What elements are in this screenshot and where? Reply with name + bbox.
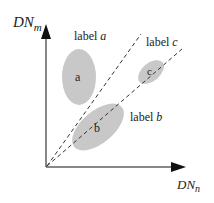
cluster-c-inner-label: c (147, 65, 152, 77)
cluster-a-inner-label: a (75, 70, 81, 84)
y-axis-arrowhead-icon (41, 24, 51, 39)
label-b: label b (130, 110, 162, 124)
y-axis-label: DNm (12, 14, 42, 33)
scatter-cluster-diagram: DNm DNn a b c label a label c label b (0, 0, 214, 203)
x-axis-arrowhead-icon (171, 162, 186, 172)
label-c: label c (146, 35, 178, 49)
label-a: label a (74, 29, 106, 43)
x-axis-label: DNn (176, 177, 200, 194)
cluster-b-inner-label: b (94, 121, 100, 135)
